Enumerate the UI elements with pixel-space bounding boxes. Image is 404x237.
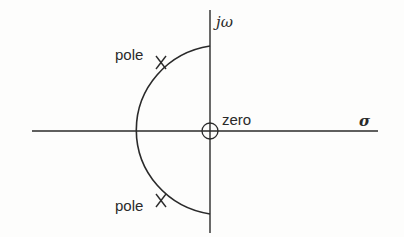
lower-pole-label: pole: [115, 198, 143, 213]
semicircle-locus: [136, 46, 210, 214]
lower-pole-marker: [156, 194, 166, 207]
real-axis-label: σ: [359, 114, 370, 129]
diagram-graphics: [0, 0, 404, 237]
s-plane-diagram: pole pole zero jω σ: [0, 0, 404, 237]
upper-pole-label: pole: [115, 47, 143, 62]
zero-label: zero: [222, 112, 251, 127]
upper-pole-marker: [156, 56, 166, 69]
imaginary-axis-label: jω: [216, 15, 233, 30]
